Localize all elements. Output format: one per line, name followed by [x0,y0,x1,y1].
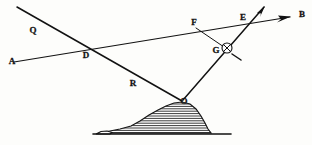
hill-hatching [95,104,215,133]
hill-group [95,102,215,134]
optics-ray-diagram: A B Q D R F E G O [0,0,312,145]
tick-at-g-line [232,54,241,60]
label-point-b: B [299,9,305,19]
arrowhead-reflected-icon [257,6,265,17]
label-point-q: Q [29,25,36,35]
label-point-r: R [130,78,137,88]
chord-f-g-line [196,28,224,47]
label-point-o: O [180,96,187,106]
label-point-a: A [9,56,16,66]
label-point-e: E [240,12,246,22]
label-point-d: D [83,50,90,60]
label-point-g: G [212,45,219,55]
diagram-canvas: A B Q D R F E G O [0,0,312,145]
label-point-f: F [191,17,197,27]
incident-ray-line [17,7,182,101]
crossed-circle-marker-icon [222,43,232,53]
